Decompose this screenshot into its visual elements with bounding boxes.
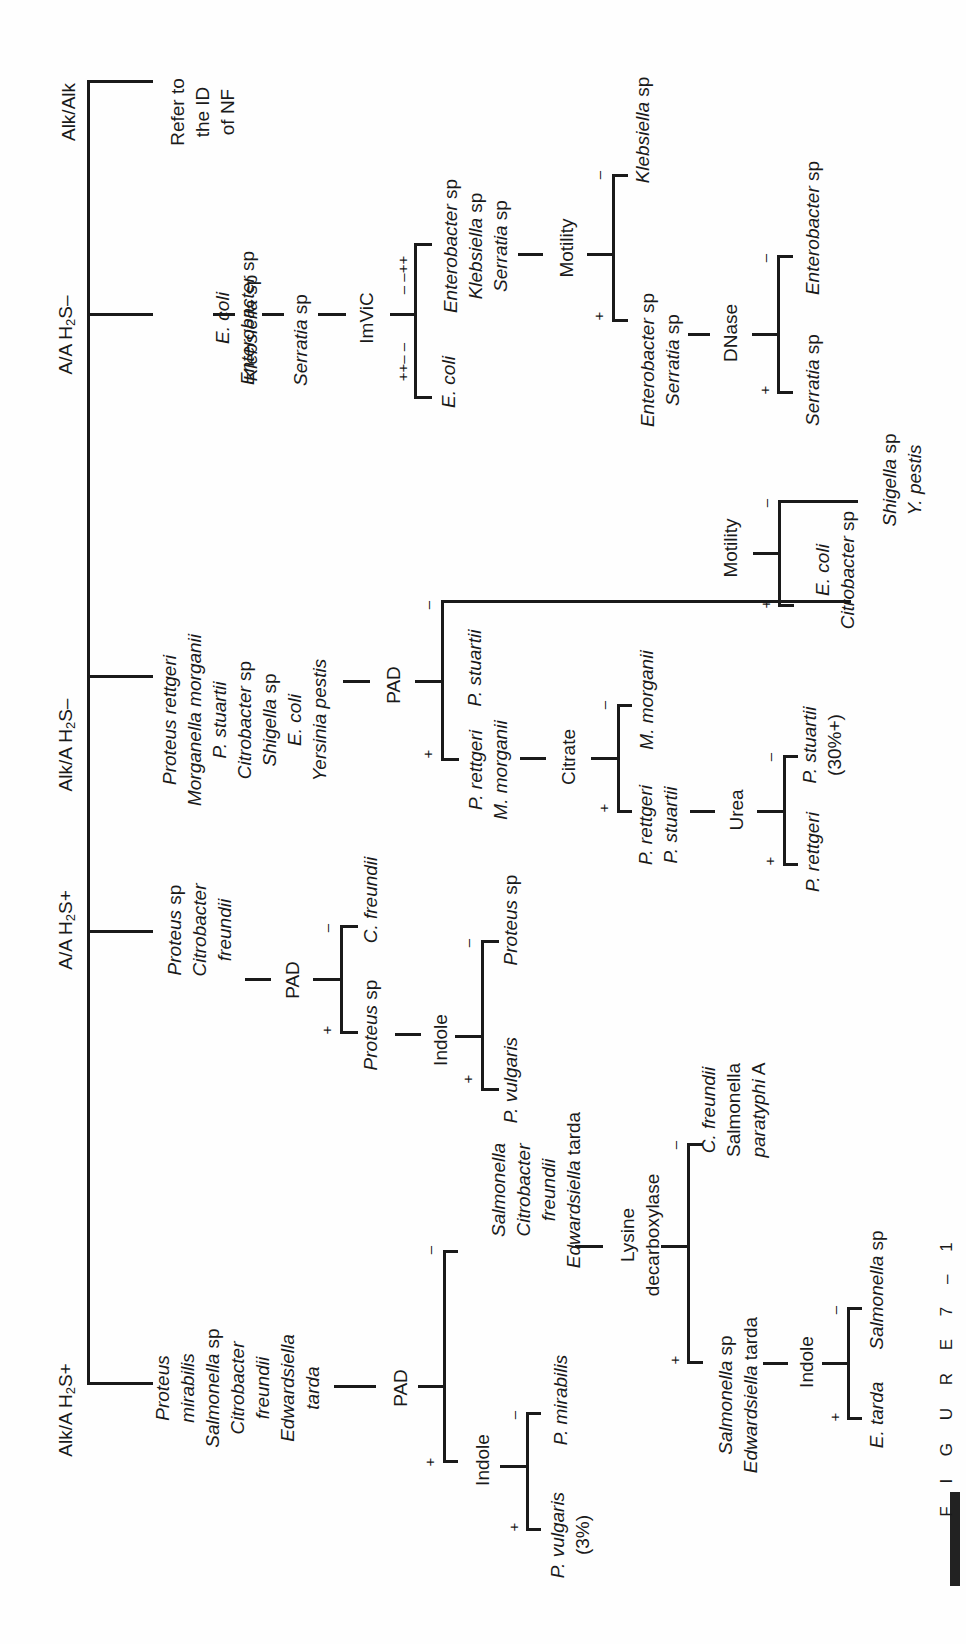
pad-alka-neg-neg-result: P. stuartii [462, 630, 487, 707]
pad-aa-pos-split [340, 925, 343, 1033]
connector [778, 604, 794, 607]
plus-sign: + [758, 600, 773, 609]
connector [414, 396, 432, 399]
test-motility-alka: Motility [718, 518, 743, 577]
urea-split [783, 755, 786, 865]
pad-alka-pos-neg-result: Salmonella Citrobacter freundii Edwardsi… [486, 1112, 586, 1268]
connector [688, 333, 710, 336]
connector [526, 1412, 541, 1415]
motility-alka-pos-result: E. coli Citrobacter sp [810, 511, 860, 629]
urea-neg-result: P. stuartii (30%+) [797, 707, 847, 784]
indole-alka-pos-split [526, 1412, 529, 1530]
connector [612, 174, 628, 177]
alk-alk-result: Refer to the ID of NF [165, 78, 240, 146]
plus-sign: + [596, 804, 611, 813]
connector [390, 313, 415, 316]
test-indole-2: Indole [794, 1336, 819, 1388]
connector [591, 757, 618, 760]
motility-alka-neg-result: Shigella sp Y. pestis [877, 434, 927, 527]
pad-neg-long-line [441, 600, 851, 603]
minus-sign: – [667, 1141, 682, 1149]
connector [334, 1385, 376, 1388]
root-trunk-line [87, 80, 90, 1383]
aa-h2s-neg-klebsiella: Klebsiella sp [238, 275, 263, 382]
connector [414, 243, 432, 246]
connector [752, 333, 777, 336]
connector [500, 1465, 527, 1468]
heading-alka-h2s-neg: Alk/A H2S– [53, 699, 83, 792]
heading-aa-h2s-pos: A/A H2S+ [53, 890, 83, 970]
heading-aa-h2s-neg: A/A H2S– [53, 295, 83, 374]
pad-split [441, 600, 444, 760]
connector [847, 1307, 862, 1310]
imvic-pos-result: E. coli [436, 356, 461, 408]
connector [783, 863, 798, 866]
pad-aa-pos-pos-result: Proteus sp [358, 980, 383, 1071]
test-lysine-decarboxylase: Lysine decarboxylase [615, 1174, 665, 1297]
plus-sign: + [757, 386, 772, 395]
minus-sign: – [506, 1411, 521, 1419]
test-imvic: ImViC [354, 292, 379, 343]
connector [441, 758, 459, 761]
plus-sign: + [827, 1413, 842, 1422]
plus-sign: + [319, 1026, 334, 1035]
connector [455, 1035, 482, 1038]
minus-sign: – [596, 701, 611, 709]
dnase-pos-result: Serratia sp [800, 334, 825, 426]
citrate-split [617, 704, 620, 812]
heading-alka-h2s-pos: Alk/A H2S+ [53, 1363, 83, 1456]
imvic-pos-code: ++– – [395, 343, 410, 381]
connector [617, 810, 632, 813]
aa-h2s-neg-serratia: Serratia sp [288, 294, 313, 386]
aa-h2s-pos-organisms: Proteus sp Citrobacter freundii [162, 884, 237, 977]
branch-alka-h2s-neg [87, 675, 153, 678]
connector [443, 1460, 458, 1463]
connector [690, 810, 715, 813]
connector [763, 1362, 788, 1365]
connector [777, 255, 793, 258]
plus-sign: + [422, 1458, 437, 1467]
motility-split [612, 174, 615, 321]
branch-aa-h2s-pos [87, 930, 153, 933]
test-indole-aa-pos: Indole [428, 1014, 453, 1066]
connector [526, 1528, 541, 1531]
motility-aa-pos-result: Enterobacter sp Serratia sp [635, 293, 685, 427]
connector [778, 500, 858, 503]
connector [481, 940, 499, 943]
test-dnase: DNase [718, 304, 743, 362]
connector [753, 552, 779, 555]
imvic-split [414, 243, 417, 398]
connector [418, 1385, 444, 1388]
test-pad-alka-pos: PAD [388, 1369, 413, 1407]
connector [783, 755, 798, 758]
pad-alka-neg-pos-result: P. rettgeri M. morganii [463, 720, 513, 819]
connector [213, 313, 235, 316]
indole-aa-pos-pos-result: P. vulgaris [498, 1037, 523, 1123]
test-citrate: Citrate [556, 729, 581, 785]
indole-aa-pos-neg-result: Proteus sp [498, 875, 523, 966]
minus-sign: – [591, 171, 606, 179]
minus-sign: – [758, 499, 773, 507]
dnase-split [777, 255, 780, 393]
test-motility-aa: Motility [554, 218, 579, 277]
test-pad-alka-neg: PAD [381, 666, 406, 704]
connector [245, 978, 271, 981]
branch-alk-alk [87, 80, 153, 83]
connector [612, 319, 628, 322]
minus-sign: – [420, 601, 435, 609]
minus-sign: – [762, 753, 777, 761]
minus-sign: – [757, 254, 772, 262]
minus-sign: – [827, 1306, 842, 1314]
minus-sign: – [422, 1246, 437, 1254]
minus-sign: – [460, 939, 475, 947]
connector [687, 1361, 703, 1364]
plus-sign: + [420, 750, 435, 759]
identification-flowchart: Alk/Alk A/A H2S– Alk/A H2S– A/A H2S+ Alk… [0, 0, 966, 1644]
motility-aa-neg-result: Klebsiella sp [630, 77, 655, 184]
connector [340, 1031, 358, 1034]
pad-aa-pos-neg-result: C. freundii [358, 857, 383, 944]
connector [481, 1088, 499, 1091]
indole2-split [847, 1307, 850, 1419]
connector [617, 704, 632, 707]
connector [587, 253, 613, 256]
